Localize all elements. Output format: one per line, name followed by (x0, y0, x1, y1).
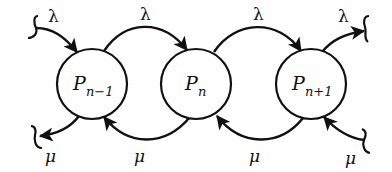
node-subscript: n−1 (86, 84, 114, 99)
node-subscript: n+1 (305, 84, 333, 99)
label-mu-outgoing: μ (45, 146, 56, 166)
node-p-n: P n (161, 49, 231, 119)
label-lambda-incoming: λ (48, 6, 59, 26)
label-lambda-curr-next: λ (253, 4, 264, 24)
label-mu-next-curr: μ (249, 146, 260, 166)
label-mu-incoming: μ (345, 148, 356, 168)
label-lambda-prev-curr: λ (140, 4, 151, 24)
edge-mu-outgoing-left (40, 116, 79, 136)
node-p-n-plus-1: P n+1 (276, 49, 346, 119)
birth-death-diagram: P n−1 P n P n+1 λ λ λ λ μ μ μ μ (0, 0, 392, 172)
edge-mu-incoming-right (324, 117, 364, 140)
edge-mu-next-to-curr (217, 116, 303, 140)
node-p-n-minus-1: P n−1 (57, 49, 127, 119)
edge-lambda-prev-to-curr (104, 27, 187, 51)
edge-lambda-incoming (36, 28, 77, 52)
edge-lambda-outgoing-right (322, 31, 364, 52)
label-mu-curr-prev: μ (134, 146, 145, 166)
brace-out-lambda-right (364, 16, 369, 42)
edge-lambda-curr-to-next (214, 27, 301, 52)
node-subscript: n (198, 84, 206, 99)
label-lambda-outgoing: λ (338, 6, 349, 26)
node-base-label: P (291, 72, 306, 94)
node-base-label: P (72, 72, 87, 94)
node-base-label: P (184, 72, 199, 94)
edge-mu-curr-to-prev (104, 117, 190, 140)
